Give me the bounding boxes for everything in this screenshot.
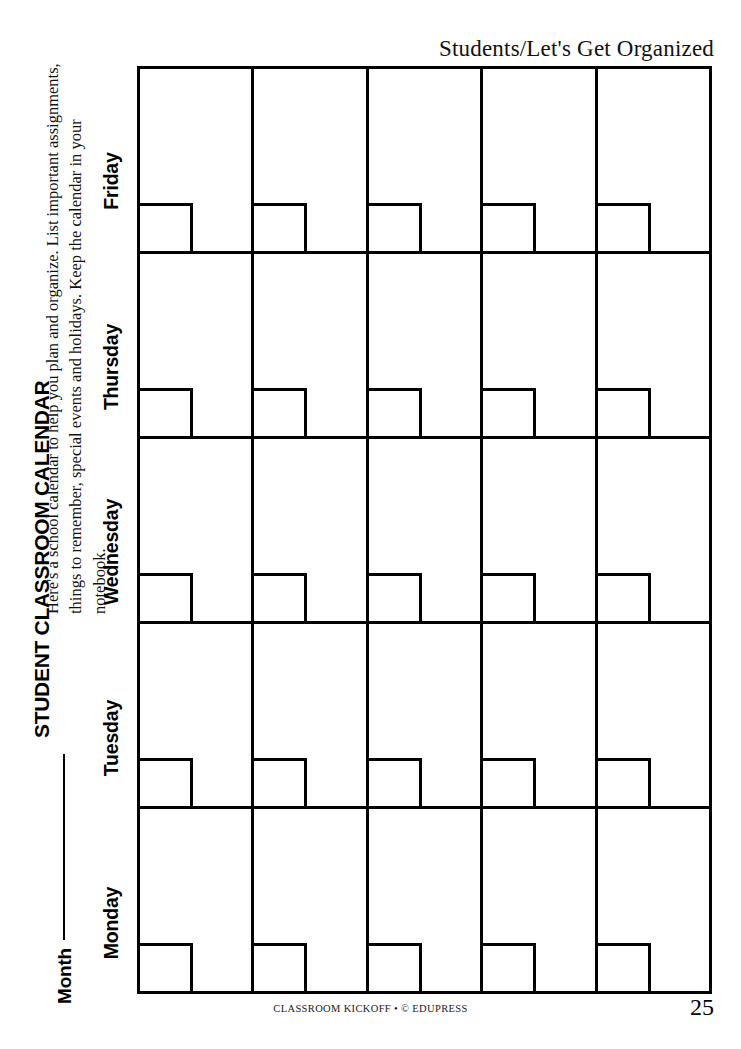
calendar-grid [137, 66, 712, 994]
date-number-box[interactable] [598, 943, 651, 991]
calendar-day-cell[interactable] [254, 439, 368, 621]
month-label: Month [54, 948, 76, 1004]
calendar-day-cell[interactable] [254, 69, 368, 251]
calendar-day-cell[interactable] [254, 254, 368, 436]
day-label-wednesday: Wednesday [98, 467, 124, 637]
date-number-box[interactable] [140, 943, 193, 991]
calendar-day-cell[interactable] [140, 254, 254, 436]
date-number-box[interactable] [483, 573, 536, 621]
date-number-box[interactable] [369, 758, 422, 806]
day-label-thursday: Thursday [98, 282, 124, 452]
date-number-box[interactable] [598, 203, 651, 251]
calendar-day-cell[interactable] [369, 254, 483, 436]
calendar-day-cell[interactable] [254, 809, 368, 991]
calendar-week-row [140, 254, 709, 439]
date-number-box[interactable] [254, 758, 307, 806]
date-number-box[interactable] [254, 573, 307, 621]
calendar-day-cell[interactable] [369, 69, 483, 251]
calendar-day-cell[interactable] [598, 254, 709, 436]
calendar-day-cell[interactable] [598, 69, 709, 251]
calendar-day-cell[interactable] [598, 624, 709, 806]
page-header-title: Students/Let's Get Organized [439, 36, 714, 62]
date-number-box[interactable] [483, 203, 536, 251]
calendar-day-cell[interactable] [483, 624, 597, 806]
date-number-box[interactable] [254, 943, 307, 991]
calendar-day-cell[interactable] [483, 439, 597, 621]
date-number-box[interactable] [598, 758, 651, 806]
date-number-box[interactable] [483, 758, 536, 806]
date-number-box[interactable] [483, 388, 536, 436]
calendar-week-row [140, 624, 709, 809]
calendar-day-cell[interactable] [369, 624, 483, 806]
calendar-day-cell[interactable] [369, 809, 483, 991]
calendar-week-row [140, 439, 709, 624]
month-field-group: Month [50, 754, 80, 1004]
date-number-box[interactable] [140, 573, 193, 621]
date-number-box[interactable] [369, 203, 422, 251]
day-label-tuesday: Tuesday [98, 653, 124, 823]
day-label-monday: Monday [98, 838, 124, 1008]
date-number-box[interactable] [140, 203, 193, 251]
calendar-day-cell[interactable] [598, 439, 709, 621]
calendar-week-row [140, 809, 709, 991]
month-write-in-line[interactable] [63, 754, 65, 940]
page-number: 25 [690, 994, 714, 1021]
calendar-day-cell[interactable] [483, 809, 597, 991]
date-number-box[interactable] [598, 573, 651, 621]
footer-credit: CLASSROOM KICKOFF • © EDUPRESS [0, 1003, 741, 1014]
calendar-day-cell[interactable] [254, 624, 368, 806]
calendar-day-cell[interactable] [140, 69, 254, 251]
calendar-day-cell[interactable] [598, 809, 709, 991]
date-number-box[interactable] [369, 943, 422, 991]
calendar-day-cell[interactable] [140, 439, 254, 621]
date-number-box[interactable] [140, 758, 193, 806]
calendar-week-row [140, 69, 709, 254]
date-number-box[interactable] [598, 388, 651, 436]
calendar-day-cell[interactable] [369, 439, 483, 621]
calendar-day-cell[interactable] [483, 254, 597, 436]
date-number-box[interactable] [254, 388, 307, 436]
date-number-box[interactable] [369, 388, 422, 436]
date-number-box[interactable] [369, 573, 422, 621]
calendar-day-cell[interactable] [140, 809, 254, 991]
date-number-box[interactable] [254, 203, 307, 251]
date-number-box[interactable] [483, 943, 536, 991]
day-label-friday: Friday [98, 96, 124, 266]
calendar-day-cell[interactable] [483, 69, 597, 251]
calendar-day-cell[interactable] [140, 624, 254, 806]
date-number-box[interactable] [140, 388, 193, 436]
